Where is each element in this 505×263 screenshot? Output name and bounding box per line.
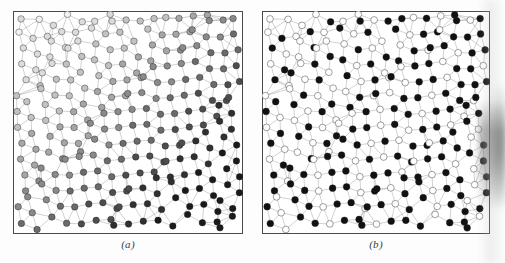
panel-b: [262, 11, 490, 234]
panel-a: [13, 11, 243, 234]
panel-b-graph: [262, 11, 490, 234]
panel-b-label: (b): [262, 238, 490, 250]
figure-container: (a) (b): [0, 0, 505, 263]
panel-a-label: (a): [13, 238, 243, 250]
panel-a-graph: [13, 11, 243, 234]
